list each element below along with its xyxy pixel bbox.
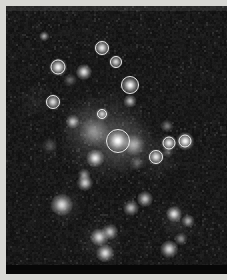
star-source: [66, 115, 80, 129]
diffuse-glow: [46, 186, 86, 226]
star-source: [166, 206, 182, 222]
star-field-figure: [0, 0, 227, 280]
source-annotation-ring: [97, 109, 107, 119]
star-source: [96, 244, 114, 262]
star-source: [124, 95, 137, 108]
star-source: [80, 118, 109, 147]
star-source: [78, 169, 91, 182]
diffuse-glow: [156, 201, 196, 241]
source-annotation-ring: [51, 60, 66, 75]
star-source: [137, 191, 153, 207]
star-source: [102, 224, 118, 240]
source-annotation-ring: [121, 76, 139, 94]
star-source: [77, 175, 93, 191]
star-source: [161, 120, 174, 133]
source-annotation-ring: [149, 150, 163, 164]
star-source: [160, 240, 178, 258]
star-source: [86, 149, 104, 167]
star-source: [175, 233, 188, 246]
source-annotation-ring: [163, 137, 176, 150]
star-source: [76, 64, 92, 80]
star-source: [90, 228, 108, 246]
star-source: [39, 31, 49, 41]
star-source: [123, 200, 139, 216]
source-annotation-ring: [46, 95, 60, 109]
star-source: [131, 157, 144, 170]
image-plate: [6, 6, 227, 274]
plate-bottom-trim: [6, 265, 227, 274]
star-source: [64, 74, 77, 87]
source-annotation-ring: [179, 135, 192, 148]
plate-top-trim: [6, 6, 227, 11]
diffuse-glow: [60, 100, 112, 152]
star-source: [182, 215, 195, 228]
star-source: [51, 194, 73, 216]
source-annotation-ring: [95, 41, 109, 55]
source-annotation-ring: [106, 129, 130, 153]
star-source: [42, 138, 58, 154]
diffuse-glow: [77, 217, 125, 265]
source-annotation-ring: [110, 56, 122, 68]
